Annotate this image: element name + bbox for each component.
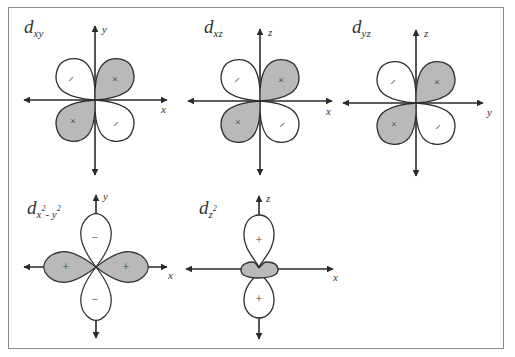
axis-label-horizontal: y bbox=[486, 106, 492, 118]
axis-label-horizontal: x bbox=[167, 269, 173, 281]
sign-right: + bbox=[123, 260, 130, 274]
orbital-dxy: dxy + + − − y x bbox=[24, 16, 167, 175]
sign-top: − bbox=[92, 230, 99, 244]
orbital-dyz-title: dyz bbox=[352, 16, 371, 39]
axis-label-horizontal: x bbox=[325, 105, 331, 117]
orbital-dx2-y2-title: dx2- y2 bbox=[27, 197, 61, 220]
axis-label-vertical: y bbox=[102, 190, 108, 202]
orbital-dxz-title: dxz bbox=[204, 16, 223, 39]
axis-label-vertical: z bbox=[267, 26, 273, 38]
orbital-dxz: dxz + + − − z x bbox=[188, 16, 332, 175]
axis-label-vertical: y bbox=[101, 23, 107, 35]
sign-bottom: − bbox=[92, 292, 99, 306]
sign-top: + bbox=[256, 233, 263, 247]
orbital-dz2-title: dz2 bbox=[199, 197, 217, 220]
sign-left: + bbox=[63, 260, 70, 274]
orbital-dxy-title: dxy bbox=[24, 16, 43, 39]
axis-label-horizontal: x bbox=[332, 271, 338, 283]
orbital-dz2: dz2 + + z x bbox=[186, 192, 338, 339]
orbital-dx2-y2: dx2- y2 + + − − y x bbox=[24, 190, 173, 338]
axis-label-vertical: z bbox=[423, 27, 429, 39]
axis-label-vertical: z bbox=[265, 192, 271, 204]
d-orbitals-diagram: dxy + + − − y x dxz + + − − z x dyz bbox=[0, 0, 515, 357]
axis-label-horizontal: x bbox=[160, 103, 166, 115]
sign-bottom: + bbox=[256, 292, 263, 306]
orbital-dyz: dyz + + − − z y bbox=[343, 16, 492, 176]
